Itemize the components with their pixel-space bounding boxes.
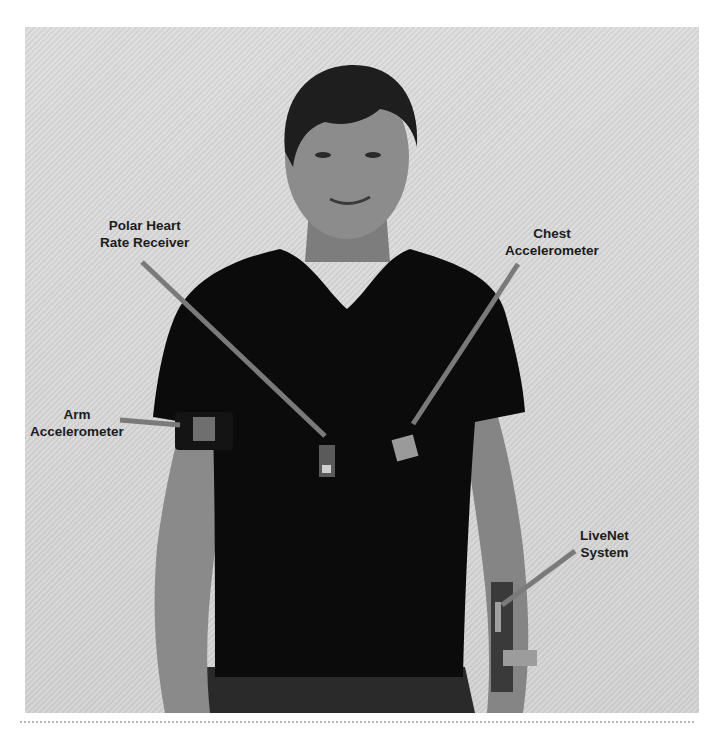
label-line: Arm: [30, 406, 124, 423]
polar-device-light: [322, 465, 331, 473]
photo-figure: Polar Heart Rate Receiver Chest Accelero…: [25, 27, 699, 713]
label-line: Polar Heart: [100, 217, 189, 234]
label-line: LiveNet: [580, 527, 629, 544]
photo-illustration: [25, 27, 699, 713]
label-line: Accelerometer: [505, 242, 599, 259]
label-livenet-system: LiveNet System: [580, 527, 629, 561]
label-line: Accelerometer: [30, 423, 124, 440]
eye-left: [315, 152, 331, 158]
callout-line-arm: [120, 420, 180, 425]
label-line: Chest: [505, 225, 599, 242]
label-chest-accelerometer: Chest Accelerometer: [505, 225, 599, 259]
label-arm-accelerometer: Arm Accelerometer: [30, 406, 124, 440]
dotted-separator: [20, 721, 694, 723]
label-polar-heart-rate-receiver: Polar Heart Rate Receiver: [100, 217, 189, 251]
arm-sensor: [193, 417, 215, 441]
label-line: Rate Receiver: [100, 234, 189, 251]
wristwatch: [503, 650, 537, 666]
eye-right: [365, 152, 381, 158]
livenet-device-detail: [495, 602, 501, 632]
label-line: System: [580, 544, 629, 561]
